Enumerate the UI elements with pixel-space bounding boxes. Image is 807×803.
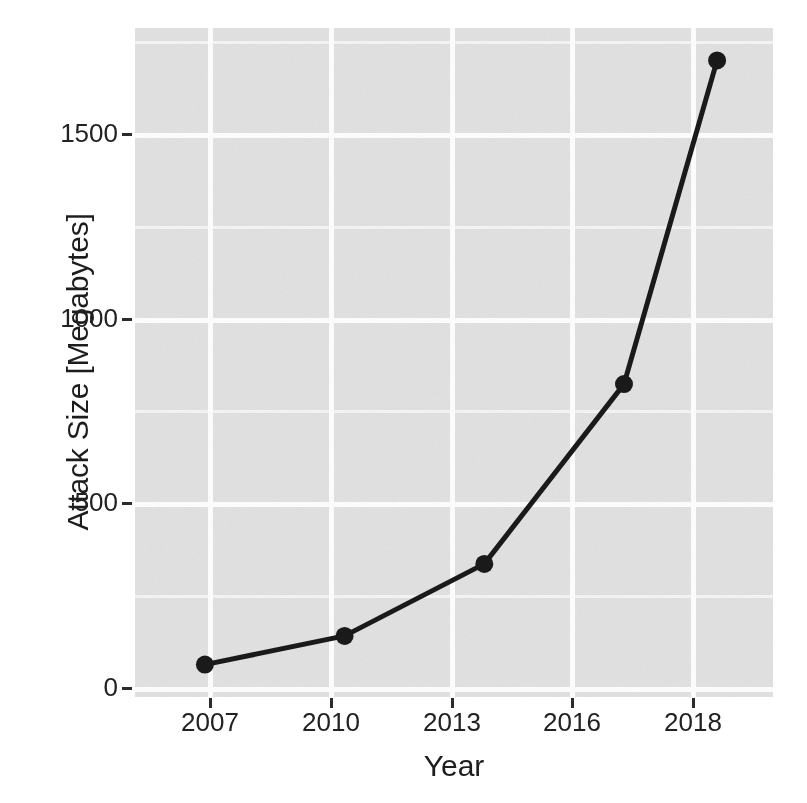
y-tick-mark-1000	[122, 318, 132, 321]
x-tick-label-2018: 2018	[633, 709, 753, 735]
x-tick-label-2007: 2007	[150, 709, 270, 735]
data-point-2018	[708, 51, 726, 69]
y-tick-label-1500: 1500	[18, 120, 118, 146]
y-tick-label-0: 0	[18, 674, 118, 700]
line-chart: Attack Size [Megabytes] 1500 1000 500 0	[0, 0, 807, 803]
x-tick-label-2013: 2013	[392, 709, 512, 735]
x-tick-label-2016: 2016	[512, 709, 632, 735]
x-axis-title: Year	[135, 749, 773, 783]
series-markers	[196, 51, 726, 673]
data-point-2016	[615, 375, 633, 393]
series-line-attack-size	[205, 60, 717, 664]
data-point-2013	[475, 555, 493, 573]
y-tick-label-1000: 1000	[18, 305, 118, 331]
data-point-2007	[196, 656, 214, 674]
x-tick-label-2010: 2010	[271, 709, 391, 735]
data-point-2010	[336, 627, 354, 645]
y-tick-mark-500	[122, 502, 132, 505]
y-tick-mark-0	[122, 687, 132, 690]
y-tick-mark-1500	[122, 133, 132, 136]
data-series-layer	[135, 28, 773, 697]
y-axis-ticks: 1500 1000 500 0	[0, 0, 118, 803]
y-tick-label-500: 500	[18, 489, 118, 515]
plot-panel	[135, 28, 773, 697]
